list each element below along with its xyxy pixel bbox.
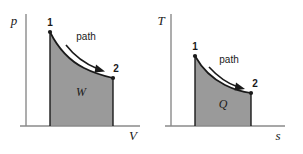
state1-label: 1 — [192, 41, 198, 52]
state1-label: 1 — [47, 17, 53, 28]
path-label: path — [76, 31, 95, 42]
t-axis-label: T — [157, 13, 165, 28]
state2-marker — [111, 76, 115, 80]
work-area-label: W — [76, 85, 87, 99]
state2-label: 2 — [113, 63, 119, 74]
v-axis-label: V — [129, 128, 139, 143]
p-axis-label: p — [10, 13, 18, 28]
s-axis-label: s — [275, 128, 280, 143]
state2-marker — [249, 91, 253, 95]
heat-area-label: Q — [219, 97, 228, 111]
state2-label: 2 — [252, 78, 258, 89]
temperature-entropy-diagram: T s 1 2 path Q — [151, 0, 303, 154]
state1-marker — [193, 54, 197, 58]
path-label: path — [219, 54, 238, 65]
state1-marker — [48, 30, 52, 34]
pressure-volume-diagram: p V 1 2 path W — [0, 0, 152, 154]
thermodynamic-diagram-figure: p V 1 2 path W — [0, 0, 303, 154]
